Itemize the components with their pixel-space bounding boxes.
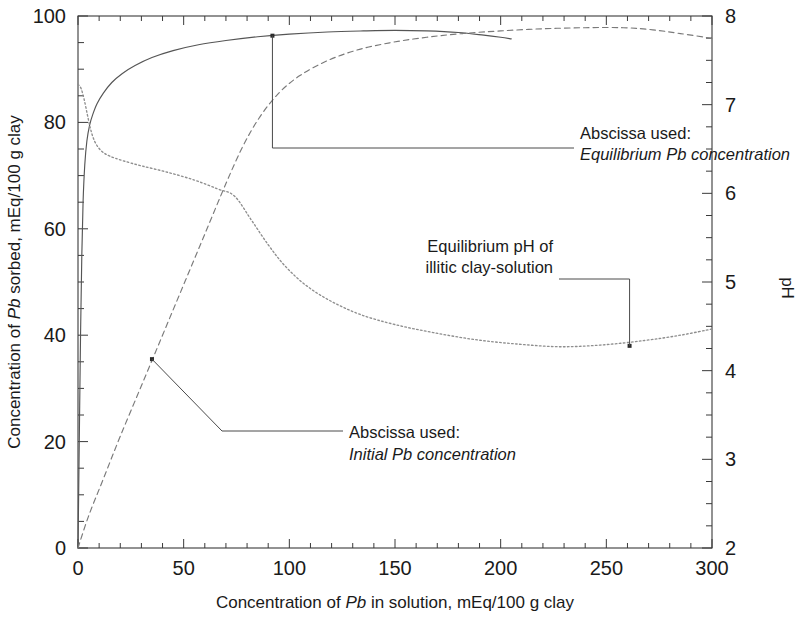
y-left-tick-label: 60	[44, 218, 66, 240]
y-left-tick-label: 40	[44, 324, 66, 346]
annotation-text-line1: Abscissa used:	[580, 124, 691, 142]
y-right-tick-label: 4	[725, 360, 736, 382]
y-right-tick-label: 6	[725, 182, 736, 204]
x-tick-label: 150	[378, 557, 411, 579]
annotation-text-line1: Equilibrium pH of	[427, 237, 553, 255]
y-left-tick-label: 20	[44, 431, 66, 453]
y-left-tick-label: 80	[44, 111, 66, 133]
chart-background	[0, 0, 796, 624]
y-right-tick-label: 3	[725, 448, 736, 470]
figure-container: 050100150200250300 020406080100 2345678 …	[0, 0, 796, 624]
annotation-text-line2: Equilibrium Pb concentration	[580, 145, 790, 163]
annotation-text-line2: Initial Pb concentration	[349, 445, 516, 463]
y-right-tick-label: 8	[725, 5, 736, 27]
y-axis-left-title: Concentration of Pb sorbed, mEq/100 g cl…	[5, 115, 24, 449]
x-tick-label: 0	[72, 557, 83, 579]
y-right-tick-label: 7	[725, 94, 736, 116]
annotation-text-line1: Abscissa used:	[349, 423, 460, 441]
x-tick-label: 50	[173, 557, 195, 579]
scientific-line-chart: 050100150200250300 020406080100 2345678 …	[0, 0, 796, 624]
annotation-text-line2: illitic clay-solution	[426, 258, 553, 276]
y-left-tick-label: 100	[33, 5, 66, 27]
y-right-tick-label: 2	[725, 537, 736, 559]
x-axis-title: Concentration of Pb in solution, mEq/100…	[216, 593, 575, 612]
y-left-tick-label: 0	[55, 537, 66, 559]
x-tick-label: 200	[484, 557, 517, 579]
x-tick-label: 300	[695, 557, 728, 579]
x-tick-label: 100	[273, 557, 306, 579]
y-axis-right-title: pH	[778, 277, 796, 299]
x-tick-label: 250	[590, 557, 623, 579]
y-right-tick-label: 5	[725, 271, 736, 293]
